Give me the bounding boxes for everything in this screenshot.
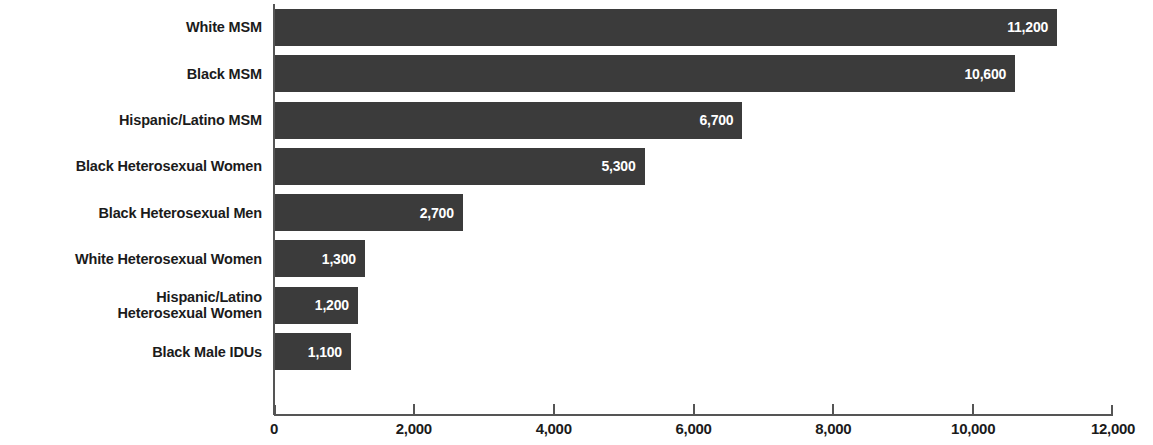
- axis-end-cap-left: [274, 405, 276, 415]
- bar-row: Hispanic/Latino MSM6,700: [0, 97, 1153, 143]
- axis-tick-mark: [413, 404, 415, 415]
- bar: 1,300: [274, 240, 365, 277]
- axis-tick-mark: [693, 404, 695, 415]
- axis-tick-mark: [972, 404, 974, 415]
- bar: 1,100: [274, 333, 351, 370]
- bar-row: Black Male IDUs1,100: [0, 329, 1153, 375]
- axis-tick-label: 12,000: [1091, 420, 1135, 437]
- bar-row: White Heterosexual Women1,300: [0, 236, 1153, 282]
- category-label: Black Male IDUs: [0, 329, 262, 375]
- axis-tick-label: 0: [270, 420, 278, 437]
- bar-row: Black MSM10,600: [0, 51, 1153, 97]
- axis-tick-label: 6,000: [675, 420, 711, 437]
- bar-value-label: 6,700: [699, 112, 742, 128]
- bar: 5,300: [274, 148, 645, 185]
- bar-track: 6,700: [274, 102, 1113, 139]
- bar-track: 1,100: [274, 333, 1113, 370]
- bar-track: 10,600: [274, 55, 1113, 92]
- axis-tick-label: 10,000: [951, 420, 995, 437]
- bar-value-label: 1,100: [308, 344, 351, 360]
- bar-rows: White MSM11,200Black MSM10,600Hispanic/L…: [0, 0, 1153, 415]
- horizontal-bar-chart: White MSM11,200Black MSM10,600Hispanic/L…: [0, 0, 1153, 445]
- bar-track: 5,300: [274, 148, 1113, 185]
- bar-track: 1,300: [274, 240, 1113, 277]
- bar-track: 1,200: [274, 287, 1113, 324]
- bar: 1,200: [274, 287, 358, 324]
- category-label: Hispanic/Latino Heterosexual Women: [0, 282, 262, 328]
- axis-end-cap-right: [1111, 405, 1113, 415]
- axis-tick-label: 4,000: [536, 420, 572, 437]
- bar-value-label: 2,700: [420, 205, 463, 221]
- axis-tick-mark: [832, 404, 834, 415]
- bar-value-label: 1,200: [315, 297, 358, 313]
- category-label: White Heterosexual Women: [0, 236, 262, 282]
- bar-value-label: 10,600: [964, 66, 1015, 82]
- axis-tick-label: 2,000: [396, 420, 432, 437]
- bar-value-label: 1,300: [322, 251, 365, 267]
- bar: 6,700: [274, 102, 742, 139]
- category-label: Hispanic/Latino MSM: [0, 97, 262, 143]
- bar-track: 11,200: [274, 9, 1113, 46]
- bar-value-label: 11,200: [1007, 19, 1057, 35]
- bar-row: White MSM11,200: [0, 4, 1153, 50]
- category-label: White MSM: [0, 4, 262, 50]
- bar-row: Hispanic/Latino Heterosexual Women1,200: [0, 282, 1153, 328]
- bar-row: Black Heterosexual Men2,700: [0, 190, 1153, 236]
- bar-value-label: 5,300: [602, 158, 645, 174]
- category-axis-line: [273, 4, 275, 415]
- category-label: Black Heterosexual Men: [0, 190, 262, 236]
- bar-row: Black Heterosexual Women5,300: [0, 143, 1153, 189]
- category-label: Black Heterosexual Women: [0, 143, 262, 189]
- bar: 11,200: [274, 9, 1057, 46]
- axis-tick-label: 8,000: [815, 420, 851, 437]
- bar: 10,600: [274, 55, 1015, 92]
- category-label: Black MSM: [0, 51, 262, 97]
- bar-track: 2,700: [274, 194, 1113, 231]
- bar: 2,700: [274, 194, 463, 231]
- axis-tick-mark: [553, 404, 555, 415]
